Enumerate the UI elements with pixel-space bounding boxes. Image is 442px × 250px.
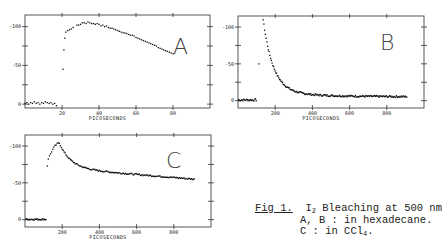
panel-b-plot: 0-50-100200400600800PICOSECONDS (220, 0, 436, 125)
caption-line-3: C : in CCl4. (255, 226, 442, 238)
panel-c-plot: 0-50-100200400600800PICOSECONDS (0, 125, 220, 250)
x-axis-label: PICOSECONDS (89, 234, 127, 240)
x-axis-label: PICOSECONDS (89, 115, 127, 121)
figure-caption: Fig 1. I2 Bleaching at 500 nm A, B : in … (255, 203, 442, 238)
x-tick-label: 200 (58, 229, 67, 235)
panel-a: 0-50-10020406080PICOSECONDS A (0, 0, 220, 125)
plot-frame (25, 15, 210, 108)
panel-a-plot: 0-50-10020406080PICOSECONDS (0, 0, 220, 125)
panel-b-label: B (380, 32, 394, 54)
x-axis-label: PICOSECONDS (302, 115, 340, 121)
y-tick-label: -50 (12, 180, 21, 186)
x-tick-label: 20 (59, 110, 65, 116)
x-tick-label: 80 (170, 110, 176, 116)
y-tick-label: 0 (231, 97, 234, 103)
x-tick-label: 800 (382, 110, 391, 116)
plot-frame (238, 16, 424, 108)
y-tick-label: -100 (9, 23, 21, 29)
x-tick-label: 600 (345, 110, 354, 116)
panel-a-label: A (173, 36, 188, 58)
x-tick-label: 200 (271, 110, 280, 116)
x-tick-label: 600 (132, 229, 141, 235)
y-tick-label: -50 (225, 61, 234, 67)
y-tick-label: 0 (18, 216, 21, 222)
y-tick-label: -50 (12, 62, 21, 68)
y-tick-label: 0 (18, 101, 21, 107)
x-tick-label: 800 (169, 229, 178, 235)
y-tick-label: -100 (222, 24, 234, 30)
panel-c-label: C (166, 150, 181, 172)
x-tick-label: 60 (133, 110, 139, 116)
figure-label: Fig 1. (255, 202, 293, 214)
panel-b: 0-50-100200400600800PICOSECONDS B (220, 0, 436, 125)
y-tick-label: -100 (9, 143, 21, 149)
panel-c: 0-50-100200400600800PICOSECONDS C (0, 125, 220, 250)
